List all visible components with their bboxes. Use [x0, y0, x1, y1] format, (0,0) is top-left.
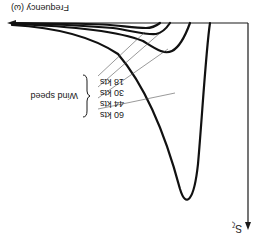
legend-brace — [83, 75, 90, 117]
chart-svg: Sζ Frequency (ω) 18 kts 30 kts 44 kts 60… — [0, 0, 268, 239]
y-axis-label: Sζ — [232, 221, 242, 234]
wave-spectrum-chart: Sζ Frequency (ω) 18 kts 30 kts 44 kts 60… — [0, 0, 268, 239]
label-44kts: 44 kts — [99, 99, 124, 109]
legend-group-label: Wind speed — [30, 91, 78, 101]
label-60kts: 60 kts — [99, 110, 124, 120]
y-axis-arrow-icon — [245, 222, 251, 230]
leader-18kts — [98, 32, 145, 76]
x-axis-label: Frequency (ω) — [11, 3, 69, 13]
label-30kts: 30 kts — [99, 88, 124, 98]
label-18kts: 18 kts — [99, 77, 124, 87]
